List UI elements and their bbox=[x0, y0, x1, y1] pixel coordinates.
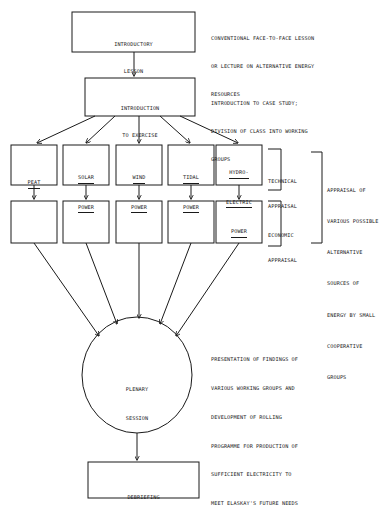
introductory-lesson-label: INTRODUCTORY LESSON bbox=[72, 22, 195, 94]
solar-power-label: SOLAR POWER bbox=[63, 155, 109, 232]
introductory-lesson-line-1: INTRODUCTORY bbox=[72, 40, 195, 49]
plenary-session-annotation: PRESENTATION OF FINDINGS OF VARIOUS WORK… bbox=[211, 336, 377, 512]
introduction-to-exercise-label: INTRODUCTION TO EXERCISE bbox=[85, 86, 195, 158]
economic-appraisal-line-1: ECONOMIC bbox=[268, 231, 312, 239]
peat-label-line-1: PEAT bbox=[28, 178, 41, 189]
solar-power-label-line-2: POWER bbox=[78, 203, 94, 214]
solar-power-label-line-1: SOLAR bbox=[78, 173, 94, 184]
annotation-line: ENERGY BY SMALL bbox=[327, 310, 379, 320]
plenary-session-line-1: PLENARY bbox=[82, 385, 192, 395]
technical-appraisal-line-1: TECHNICAL bbox=[268, 177, 312, 185]
hydro-electric-power-label-line-1: HYDRO- bbox=[229, 168, 248, 179]
annotation-line: VARIOUS WORKING GROUPS AND bbox=[211, 384, 377, 394]
plenary-session-label: PLENARY SESSION bbox=[82, 366, 192, 442]
tidal-power-label-line-2: POWER bbox=[183, 203, 199, 214]
annotation-line: INTRODUCTION TO CASE STUDY; bbox=[211, 99, 376, 108]
plenary-session-line-2: SESSION bbox=[82, 414, 192, 424]
introductory-lesson-line-2: LESSON bbox=[72, 67, 195, 76]
tidal-power-label: TIDAL POWER bbox=[168, 155, 214, 232]
connector-solar-economic-to-plenary bbox=[86, 243, 117, 324]
economic-appraisal-line-2: APPRAISAL bbox=[268, 256, 312, 264]
introduction-to-exercise-line-2: TO EXERCISE bbox=[85, 131, 195, 140]
wind-power-label-line-1: WIND bbox=[133, 173, 146, 184]
hydro-electric-power-label-line-2: ELECTRIC bbox=[226, 198, 252, 209]
hydro-electric-power-label: HYDRO- ELECTRIC POWER bbox=[216, 150, 262, 257]
annotation-line: DIVISION OF CLASS INTO WORKING bbox=[211, 127, 376, 136]
annotation-line: CONVENTIONAL FACE-TO-FACE LESSON bbox=[211, 34, 376, 43]
technical-appraisal-line-2: APPRAISAL bbox=[268, 202, 312, 210]
peat-label: PEAT bbox=[11, 160, 57, 208]
annotation-line: OR LECTURE ON ALTERNATIVE ENERGY bbox=[211, 62, 376, 71]
annotation-line: ALTERNATIVE bbox=[327, 247, 379, 257]
connector-tidal-economic-to-plenary bbox=[160, 243, 191, 324]
annotation-line: MEET ELASKAY'S FUTURE NEEDS bbox=[211, 499, 377, 509]
debriefing-label: DEBRIEFING bbox=[88, 475, 199, 512]
connector-peat-economic-to-plenary bbox=[34, 243, 99, 336]
hydro-electric-power-label-line-3: POWER bbox=[231, 227, 247, 238]
annotation-line: SUFFICIENT ELECTRICITY TO bbox=[211, 470, 377, 480]
annotation-line: PRESENTATION OF FINDINGS OF bbox=[211, 355, 377, 365]
annotation-line: PROGRAMME FOR PRODUCTION OF bbox=[211, 442, 377, 452]
annotation-line: VARIOUS POSSIBLE bbox=[327, 216, 379, 226]
introduction-to-exercise-line-1: INTRODUCTION bbox=[85, 104, 195, 113]
annotation-line: SOURCES OF bbox=[327, 278, 379, 288]
tidal-power-label-line-1: TIDAL bbox=[183, 173, 199, 184]
wind-power-label-line-2: POWER bbox=[131, 203, 147, 214]
annotation-line: DEVELOPMENT OF ROLLING bbox=[211, 413, 377, 423]
debriefing-line-1: DEBRIEFING bbox=[88, 493, 199, 502]
annotation-line: APPRAISAL OF bbox=[327, 185, 379, 195]
wind-power-label: WIND POWER bbox=[116, 155, 162, 232]
economic-appraisal-label: ECONOMIC APPRAISAL bbox=[268, 215, 312, 281]
